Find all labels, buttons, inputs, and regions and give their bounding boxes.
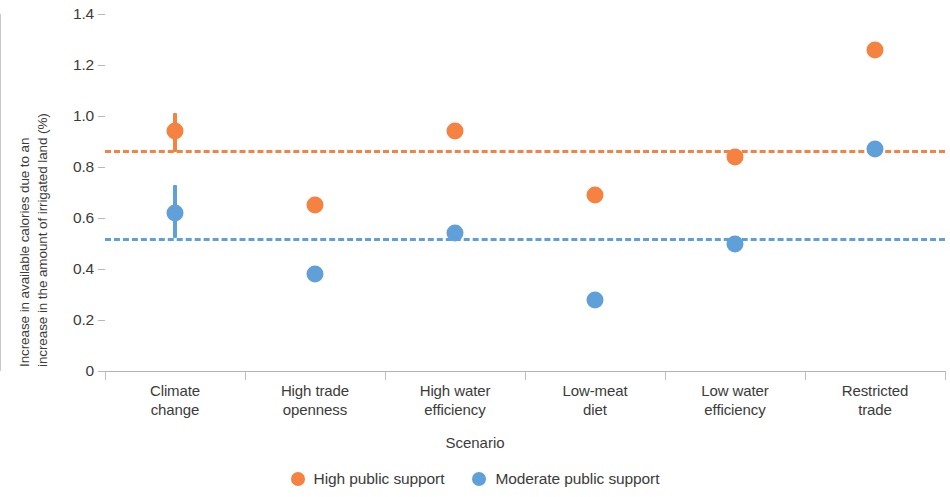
- x-tick-label-0: Climatechange: [150, 381, 200, 419]
- chart-figure: Increase in available calories due to an…: [0, 0, 950, 497]
- data-point[interactable]: [447, 225, 464, 242]
- x-tick-mark: [525, 371, 526, 380]
- x-tick-mark: [805, 371, 806, 380]
- x-tick-mark: [945, 371, 946, 380]
- data-point[interactable]: [867, 141, 884, 158]
- x-tick-label-line: Climate: [150, 381, 200, 400]
- data-point[interactable]: [587, 187, 604, 204]
- data-point[interactable]: [307, 197, 324, 214]
- data-point[interactable]: [447, 123, 464, 140]
- x-tick-label-line: efficiency: [701, 400, 768, 419]
- x-tick-label-3: Low-meatdiet: [562, 381, 627, 419]
- data-point[interactable]: [727, 235, 744, 252]
- y-axis-title-line-2: increase in the amount of irrigated land…: [35, 113, 50, 367]
- y-tick-label: 0.4: [73, 260, 94, 278]
- reference-line-series-1: [105, 238, 945, 241]
- x-tick-label-line: Low-meat: [562, 381, 627, 400]
- plot-area: [105, 14, 945, 371]
- x-tick-label-2: High waterefficiency: [420, 381, 491, 419]
- y-tick-label: 0.6: [73, 209, 94, 227]
- x-tick-mark: [105, 371, 106, 380]
- data-point[interactable]: [167, 204, 184, 221]
- y-tick-mark: [98, 167, 105, 168]
- y-axis-title: Increase in available calories due to an…: [0, 0, 60, 380]
- y-tick-label: 1.2: [73, 56, 94, 74]
- x-axis-title: Scenario: [0, 434, 950, 451]
- x-tick-label-1: High tradeopenness: [281, 381, 349, 419]
- y-axis-title-line-1: Increase in available calories due to an: [17, 138, 32, 367]
- y-tick-mark: [98, 116, 105, 117]
- x-tick-label-line: diet: [562, 400, 627, 419]
- legend-marker-icon: [291, 472, 305, 486]
- chart-legend: High public supportModerate public suppo…: [0, 470, 950, 488]
- y-tick-label: 1.4: [73, 5, 94, 23]
- y-tick-label: 0.8: [73, 158, 94, 176]
- legend-label: Moderate public support: [495, 470, 659, 488]
- x-tick-label-4: Low waterefficiency: [701, 381, 768, 419]
- data-point[interactable]: [587, 291, 604, 308]
- data-point[interactable]: [727, 148, 744, 165]
- y-tick-label: 1.0: [73, 107, 94, 125]
- y-tick-mark: [98, 65, 105, 66]
- legend-label: High public support: [314, 470, 445, 488]
- legend-item-1[interactable]: Moderate public support: [472, 470, 659, 488]
- y-tick-mark: [98, 218, 105, 219]
- x-tick-label-5: Restrictedtrade: [842, 381, 909, 419]
- x-tick-label-line: High trade: [281, 381, 349, 400]
- y-tick-label: 0.2: [73, 311, 94, 329]
- y-tick-label: 0: [86, 362, 94, 380]
- x-tick-label-line: High water: [420, 381, 491, 400]
- x-tick-label-line: Restricted: [842, 381, 909, 400]
- data-point[interactable]: [167, 123, 184, 140]
- y-tick-mark: [98, 269, 105, 270]
- x-tick-label-line: Low water: [701, 381, 768, 400]
- x-tick-mark: [385, 371, 386, 380]
- data-point[interactable]: [867, 41, 884, 58]
- x-tick-label-line: trade: [842, 400, 909, 419]
- reference-line-series-0: [105, 150, 945, 153]
- data-point[interactable]: [307, 266, 324, 283]
- y-tick-mark: [98, 371, 105, 372]
- legend-marker-icon: [472, 472, 486, 486]
- y-axis-spine: [0, 14, 1, 371]
- x-tick-label-line: openness: [281, 400, 349, 419]
- legend-item-0[interactable]: High public support: [291, 470, 445, 488]
- x-tick-label-line: change: [150, 400, 200, 419]
- y-tick-mark: [98, 320, 105, 321]
- x-tick-label-line: efficiency: [420, 400, 491, 419]
- y-tick-mark: [98, 14, 105, 15]
- x-tick-mark: [245, 371, 246, 380]
- x-tick-mark: [665, 371, 666, 380]
